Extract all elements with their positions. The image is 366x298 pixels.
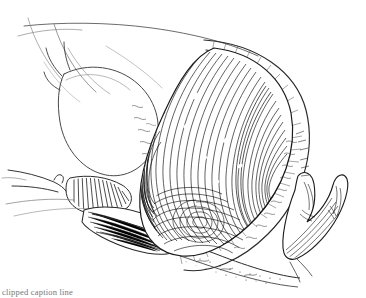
anatomical-figure: clipped caption line	[0, 0, 366, 298]
engraving-illustration	[0, 0, 366, 298]
